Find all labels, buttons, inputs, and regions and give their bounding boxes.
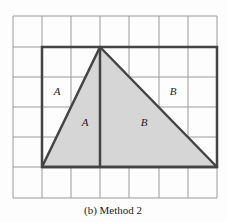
method-2-diagram: A A B B (b) Method 2 [0,0,227,222]
region-label-b-outside: B [170,85,177,97]
figure-caption: (b) Method 2 [84,204,142,217]
region-label-b-inside: B [141,116,148,128]
region-label-a-inside: A [81,116,89,128]
region-label-a-outside: A [53,85,61,97]
